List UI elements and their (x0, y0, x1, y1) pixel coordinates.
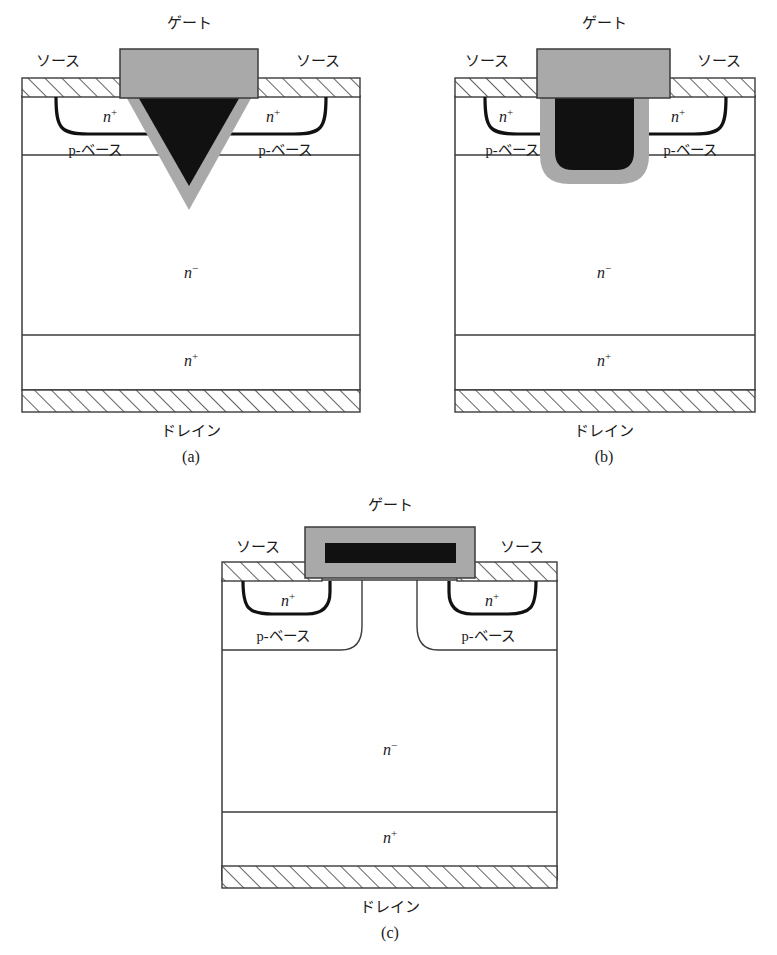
gate-label-b: ゲート (582, 15, 627, 31)
p-base-label-left-b: p-ベース (485, 142, 538, 158)
panel-caption-a: (a) (182, 448, 200, 466)
gate-poly-c (325, 543, 456, 563)
panel-b-umos: ゲート ソース ソース n+ n+ p-ベース p-ベース n− n+ ドレイン… (455, 15, 755, 466)
gate-poly-trench-b (555, 95, 634, 170)
gate-electrode-a (120, 49, 258, 98)
source-label-left-b: ソース (465, 53, 509, 69)
gate-electrode-b (537, 49, 670, 98)
source-label-right-b: ソース (697, 53, 741, 69)
drain-metal-c (222, 866, 557, 888)
mosfet-cross-section-figure: ゲート ソース ソース n+ n+ p-ベース p-ベース n− n+ ドレイン… (0, 0, 777, 955)
drain-metal-a (22, 390, 360, 412)
p-base-label-right-c: p-ベース (461, 628, 514, 644)
p-base-label-right-a: p-ベース (258, 142, 311, 158)
source-label-right-a: ソース (296, 53, 340, 69)
panel-c-dmos: ゲート ソース ソース n+ n+ p-ベース p-ベース n− n+ ドレイン… (222, 497, 557, 942)
p-base-label-right-b: p-ベース (663, 142, 716, 158)
gate-label-a: ゲート (167, 15, 212, 31)
panel-a-vmos: ゲート ソース ソース n+ n+ p-ベース p-ベース n− n+ ドレイン… (22, 15, 360, 466)
drain-label-b: ドレイン (574, 423, 634, 439)
gate-label-c: ゲート (368, 497, 413, 513)
u-trench-b (540, 93, 649, 184)
source-label-left-c: ソース (236, 539, 280, 555)
panel-caption-c: (c) (381, 924, 399, 942)
drain-label-c: ドレイン (360, 899, 420, 915)
panel-caption-b: (b) (595, 448, 614, 466)
drain-label-a: ドレイン (161, 423, 221, 439)
source-label-left-a: ソース (36, 53, 80, 69)
source-label-right-c: ソース (500, 539, 544, 555)
drain-metal-b (455, 390, 755, 412)
p-base-label-left-c: p-ベース (256, 628, 309, 644)
p-base-label-left-a: p-ベース (68, 142, 121, 158)
